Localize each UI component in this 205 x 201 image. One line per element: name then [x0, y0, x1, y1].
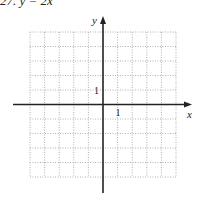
y-axis-label: y	[91, 14, 97, 26]
x-tick-label: 1	[116, 107, 121, 118]
y-tick-label: 1	[94, 85, 99, 96]
x-axis-label: x	[186, 108, 192, 120]
x-axis-arrow-icon	[184, 102, 192, 108]
y-axis-arrow-icon	[100, 16, 106, 24]
coordinate-grid: x y 1 1	[0, 0, 205, 201]
